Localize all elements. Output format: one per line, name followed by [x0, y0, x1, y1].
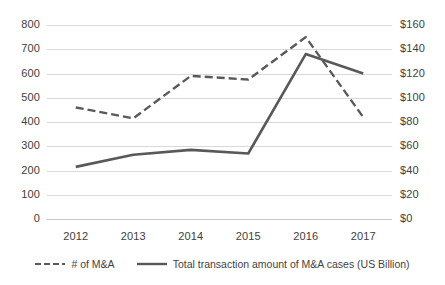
chart-legend: # of M&A Total transaction amount of M&A…: [0, 258, 445, 270]
dashed-line-swatch-icon: [35, 259, 65, 269]
solid-line-swatch-icon: [137, 259, 167, 269]
plot-area: [0, 0, 445, 285]
legend-label: # of M&A: [71, 258, 114, 270]
series-line-total-transaction-amount: [76, 54, 364, 167]
legend-item-number-of-ma: # of M&A: [35, 258, 114, 270]
series-line-number-of-ma: [76, 37, 364, 118]
legend-label: Total transaction amount of M&A cases (U…: [173, 258, 410, 270]
legend-item-total-transaction-amount: Total transaction amount of M&A cases (U…: [137, 258, 410, 270]
line-chart: 8007006005004003002001000 $160$140$120$1…: [0, 0, 445, 285]
